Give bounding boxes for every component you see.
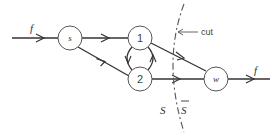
edge-1-to-2: [125, 47, 132, 70]
svg-text:w: w: [213, 74, 219, 84]
edge-1-to-w: [151, 43, 206, 71]
edge-2-to-1: [148, 47, 156, 70]
svg-text:s: s: [68, 33, 72, 43]
set-s-bar-label: S: [181, 101, 189, 116]
set-s-label: S: [160, 104, 166, 116]
node-1: 1: [128, 26, 152, 50]
edge-2-to-w: [152, 75, 204, 83]
edge-s-to-2: [78, 47, 129, 76]
edge-in-to-s: [12, 34, 58, 42]
edge-w-to-out: [228, 75, 270, 83]
flow-out-label: f: [254, 64, 259, 76]
cut-pointer: [178, 29, 198, 35]
svg-text:2: 2: [137, 73, 143, 85]
flow-network-diagram: f f s 1 2: [0, 0, 278, 139]
svg-text:S: S: [181, 104, 187, 116]
node-w: w: [204, 67, 228, 91]
node-2: 2: [128, 67, 152, 91]
svg-text:1: 1: [137, 32, 143, 44]
cut-label: cut: [201, 27, 214, 37]
edge-s-to-1: [82, 34, 128, 42]
flow-in-label: f: [30, 22, 35, 34]
node-s: s: [58, 26, 82, 50]
